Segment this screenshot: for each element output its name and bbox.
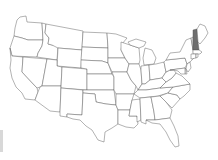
state-rhode-island[interactable] [196,54,198,58]
state-colorado[interactable] [61,67,87,90]
state-iowa[interactable] [108,58,129,72]
state-connecticut[interactable] [191,54,196,59]
state-michigan[interactable] [143,48,156,65]
state-washington[interactable] [14,16,43,40]
state-wyoming[interactable] [57,48,82,68]
state-arizona[interactable] [35,86,61,112]
state-north-dakota[interactable] [82,32,108,48]
us-states-map [0,0,218,160]
edge-scrollbar-mark [0,130,3,152]
state-kansas[interactable] [87,74,114,90]
state-massachusetts[interactable] [193,50,202,54]
state-new-mexico[interactable] [60,88,83,117]
state-florida[interactable] [146,118,179,147]
state-maine[interactable] [197,24,208,44]
